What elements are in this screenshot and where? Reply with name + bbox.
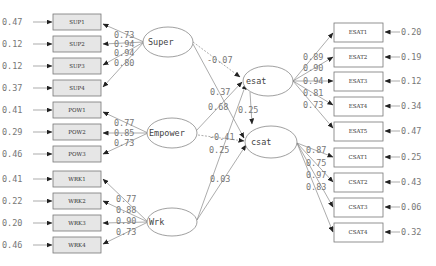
error-variance: 0.20 [401,27,421,37]
indicator-csat4: CSAT4 0.32 [334,223,421,242]
error-variance: 0.41 [2,105,22,115]
structural-paths: -0.07 0.37 0.68 -0.41 0.25 0.03 0.25 [193,42,258,220]
error-variance: 0.47 [401,126,421,136]
error-variance: 0.29 [2,127,22,137]
indicator-sup3: 0.12 SUP3 [2,58,101,74]
right-indicators: ESAT1 0.20 ESAT2 0.19 ESAT3 0.12 ESAT4 0… [334,23,421,242]
indicator-label: CSAT1 [349,154,368,160]
latent-label: Super [148,37,174,47]
indicator-csat2: CSAT2 0.43 [334,173,421,192]
indicator-esat3: ESAT3 0.12 [334,72,421,91]
latent-label: esat [246,76,266,86]
indicator-sup4: 0.37 SUP4 [2,80,101,96]
path-coef-wrk-esat: 0.25 [209,145,229,155]
latent-empower: Empower [147,118,197,148]
indicator-label: POW3 [68,151,86,157]
indicator-label: ESAT5 [349,128,368,134]
indicator-sup2: 0.12 SUP2 [2,36,101,52]
loading-label: 0.81 [303,88,323,98]
indicator-label: ESAT1 [349,29,368,35]
error-variance: 0.34 [401,101,421,111]
error-variance: 0.12 [2,39,22,49]
loading-label: 0.77 [116,194,136,204]
indicator-label: SUP4 [69,85,85,91]
indicator-csat3: CSAT3 0.06 [334,198,421,217]
latent-label: Empower [149,128,185,138]
loading-label: 0.90 [303,63,323,73]
loading-label: 0.77 [114,118,134,128]
indicator-csat1: CSAT1 0.25 [334,148,421,167]
error-variance: 0.20 [2,218,22,228]
latent-esat: esat [243,66,293,96]
path-coef-super-csat: 0.37 [210,87,230,97]
loading-label: 0.94 [114,48,134,58]
indicator-label: ESAT3 [349,78,368,84]
error-variance: 0.46 [2,149,22,159]
indicator-pow2: 0.29 POW2 [2,124,101,140]
latent-csat: csat [245,126,297,158]
loading-label: 0.73 [303,100,323,110]
indicator-wrk2: 0.22 WRK2 [2,193,101,209]
indicator-sup1: 0.47 SUP1 [2,14,101,30]
error-variance: 0.32 [401,227,421,237]
indicator-label: CSAT4 [349,229,368,235]
error-variance: 0.41 [2,174,22,184]
indicator-label: WRK1 [68,176,85,182]
indicator-pow3: 0.46 POW3 [2,146,101,162]
error-variance: 0.47 [2,17,22,27]
loading-label: 0.73 [116,227,136,237]
latent-wrk: Wrk [147,208,197,236]
indicator-label: SUP3 [69,63,85,69]
indicator-label: CSAT3 [349,204,368,210]
loading-label: 0.94 [303,76,323,86]
latent-label: Wrk [149,217,164,227]
indicator-label: SUP2 [69,41,85,47]
loading-label: 0.88 [116,205,136,215]
error-variance: 0.37 [2,83,22,93]
indicator-label: WRK3 [68,220,86,226]
indicator-label: ESAT4 [349,103,368,109]
error-variance: 0.12 [2,61,22,71]
indicator-wrk3: 0.20 WRK3 [2,215,101,231]
loading-label: 0.85 [114,128,134,138]
indicator-esat2: ESAT2 0.19 [334,48,421,67]
path-coef-wrk-csat: 0.03 [210,174,230,184]
sem-path-diagram: 0.47 SUP1 0.12 SUP2 0.12 SUP3 0.37 SUP4 … [0,0,436,266]
path-coef-esat-csat: 0.25 [238,105,258,115]
error-variance: 0.06 [401,202,421,212]
error-variance: 0.46 [2,240,22,250]
left-indicators: 0.47 SUP1 0.12 SUP2 0.12 SUP3 0.37 SUP4 … [2,14,101,253]
indicator-label: WRK2 [68,198,85,204]
error-variance: 0.12 [401,76,421,86]
loading-label: 0.87 [306,145,326,155]
indicator-wrk1: 0.41 WRK1 [2,171,101,187]
loading-label: 0.83 [306,182,326,192]
indicator-esat4: ESAT4 0.34 [334,97,421,116]
loading-label: 0.97 [306,170,326,180]
latent-super: Super [143,27,193,57]
error-variance: 0.22 [2,196,22,206]
loading-label: 0.73 [114,138,134,148]
right-loadings: 0.89 0.90 0.94 0.81 0.73 0.87 0.75 0.97 … [293,33,333,232]
indicator-label: CSAT2 [349,179,368,185]
indicator-label: WRK4 [68,242,86,248]
indicator-wrk4: 0.46 WRK4 [2,237,101,253]
error-variance: 0.25 [401,152,421,162]
latent-label: csat [251,137,271,147]
error-variance: 0.43 [401,177,421,187]
left-loadings: 0.73 0.94 0.94 0.80 0.77 0.85 0.73 0.77 … [103,24,148,244]
loading-label: 0.75 [306,158,326,168]
loading-label: 0.80 [114,58,134,68]
indicator-label: ESAT2 [349,54,368,60]
indicator-label: POW2 [68,129,85,135]
error-variance: 0.19 [401,52,421,62]
indicator-esat5: ESAT5 0.47 [334,122,421,141]
path-coef-empower-esat: 0.68 [208,102,228,112]
loading-label: 0.89 [303,52,323,62]
indicator-pow1: 0.41 POW1 [2,102,101,118]
path-coef-empower-csat: -0.41 [209,132,235,142]
path-coef-super-esat: -0.07 [207,55,233,65]
indicator-esat1: ESAT1 0.20 [334,23,421,42]
loading-label: 0.90 [116,216,136,226]
indicator-label: SUP1 [69,19,85,25]
